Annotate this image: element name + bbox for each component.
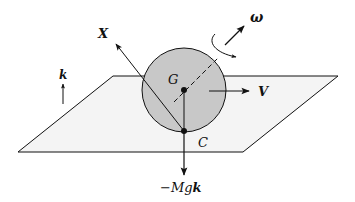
omega-label: ω bbox=[250, 9, 264, 25]
center-label: G bbox=[168, 72, 178, 87]
omega-arrow bbox=[225, 26, 244, 45]
weight-label: −Mgk bbox=[160, 180, 202, 195]
k-label: k bbox=[59, 68, 67, 82]
sphere-on-plane-diagram: k X ω V G C −Mgk bbox=[0, 0, 355, 202]
contact-label: C bbox=[198, 135, 208, 150]
weight-label-vector: k bbox=[193, 180, 202, 195]
weight-label-prefix: −Mg bbox=[160, 180, 193, 195]
x-axis-label: X bbox=[97, 26, 109, 41]
center-point-g bbox=[181, 87, 187, 93]
